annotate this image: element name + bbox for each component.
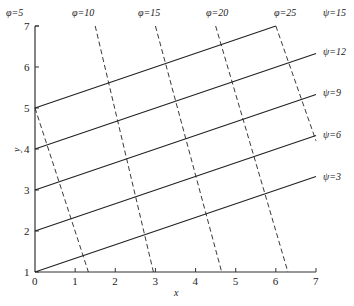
y-tick-label: 5 [24, 102, 30, 114]
psi-line [35, 135, 316, 231]
phi-label-5: φ=5 [6, 7, 23, 18]
psi-line [35, 94, 316, 190]
psi-line [35, 53, 316, 149]
flow-net-diagram: 1234567 01234567 φ=5 φ=10 φ=15 φ=20 φ=25… [0, 0, 354, 306]
psi-label-3: ψ=3 [323, 171, 341, 182]
phi-equipotential-lines [35, 26, 316, 272]
y-tick-label: 7 [24, 20, 30, 32]
y-axis-label: y [11, 147, 22, 153]
phi-line [155, 26, 221, 272]
psi-line [35, 26, 276, 108]
psi-streamlines [35, 26, 316, 272]
psi-label-6: ψ=6 [323, 129, 341, 140]
phi-label-20: φ=20 [206, 7, 228, 18]
x-tick-label: 6 [273, 275, 279, 287]
x-tick-label: 5 [233, 275, 239, 287]
x-tick-label: 4 [193, 275, 199, 287]
psi-label-9: ψ=9 [323, 87, 341, 98]
phi-label-25: φ=25 [274, 7, 296, 18]
x-tick-label: 7 [313, 275, 319, 287]
x-tick-label: 0 [32, 275, 38, 287]
phi-line [35, 108, 88, 272]
x-ticks: 01234567 [32, 268, 319, 287]
x-tick-label: 1 [72, 275, 78, 287]
psi-label-15: ψ=15 [323, 7, 346, 18]
psi-line [35, 176, 316, 272]
x-axis-label: x [173, 287, 179, 298]
phi-label-15: φ=15 [138, 7, 160, 18]
psi-label-12: ψ=12 [323, 46, 346, 57]
x-tick-label: 2 [112, 275, 118, 287]
y-tick-label: 1 [24, 266, 30, 278]
y-tick-label: 3 [24, 184, 30, 196]
phi-label-10: φ=10 [72, 7, 94, 18]
y-tick-label: 6 [24, 61, 30, 73]
x-tick-label: 3 [152, 275, 158, 287]
y-tick-label: 2 [24, 225, 30, 237]
phi-line [276, 26, 316, 141]
y-tick-label: 4 [24, 143, 30, 155]
